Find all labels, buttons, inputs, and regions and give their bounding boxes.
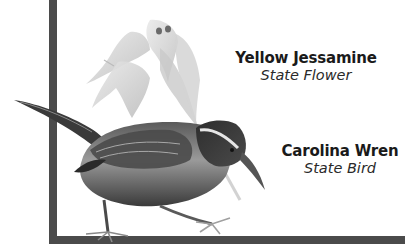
flower-label: State Flower — [232, 67, 380, 84]
bird-caption: Carolina Wren State Bird — [275, 142, 405, 177]
bird-label: State Bird — [275, 160, 405, 177]
bird-icon — [14, 100, 265, 242]
flower-name: Yellow Jessamine — [232, 49, 380, 67]
bird-and-flower-illustration — [0, 0, 405, 251]
bird-name: Carolina Wren — [275, 142, 405, 160]
flower-caption: Yellow Jessamine State Flower — [232, 49, 380, 84]
